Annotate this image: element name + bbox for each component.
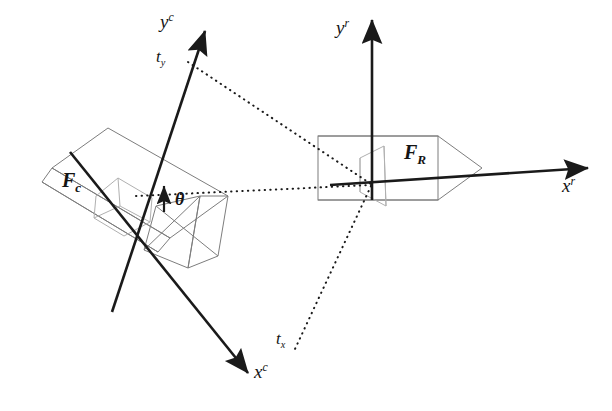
camera-x-axis-label: xc	[254, 362, 268, 381]
camera-body-group	[42, 128, 228, 268]
dotted-line-ty-to-robot	[188, 62, 371, 184]
camera-y-axis-label: yc	[160, 12, 174, 31]
translation-ty-label-subscript: y	[161, 57, 166, 68]
camera-frame-label-subscript: c	[75, 180, 81, 195]
dotted-line-camera-to-robot	[136, 185, 371, 196]
camera-y-axis-label-superscript: c	[168, 11, 173, 24]
camera-wedge-ridge-b	[144, 196, 200, 250]
camera-axes-group	[70, 31, 248, 373]
robot-frame-label-subscript: R	[417, 152, 426, 167]
robot-nose-triangle	[438, 136, 482, 200]
robot-frame-label: FR	[404, 142, 426, 166]
figure-root: yc xc yr xr ty tx Fc FR θ	[0, 0, 612, 411]
camera-x-axis-label-superscript: c	[262, 361, 267, 374]
robot-y-axis-label-superscript: r	[344, 17, 349, 30]
camera-wedge-ridge	[156, 206, 218, 256]
robot-axes-group	[330, 20, 588, 200]
robot-body-group	[318, 136, 482, 206]
camera-frame-label-base: F	[62, 169, 75, 191]
theta-angle-label: θ	[175, 190, 184, 208]
theta-angle-label-text: θ	[175, 189, 184, 209]
dotted-line-robot-to-tx	[295, 186, 371, 349]
camera-frame-label: Fc	[62, 170, 81, 194]
robot-frame-label-base: F	[404, 141, 417, 163]
translation-ty-label: ty	[156, 48, 165, 69]
camera-y-axis	[112, 31, 205, 312]
translation-tx-label: tx	[276, 330, 285, 351]
robot-x-axis	[330, 168, 588, 185]
camera-wedge-face-a	[144, 196, 200, 268]
robot-x-axis-label-superscript: r	[570, 175, 575, 188]
translation-tx-label-subscript: x	[281, 339, 286, 350]
camera-lens-cone	[94, 178, 152, 236]
robot-x-axis-label: xr	[562, 176, 575, 195]
diagram-canvas	[0, 0, 612, 411]
robot-y-axis-label: yr	[336, 18, 349, 37]
dotted-lines-group	[136, 62, 371, 349]
camera-x-axis	[70, 152, 248, 373]
